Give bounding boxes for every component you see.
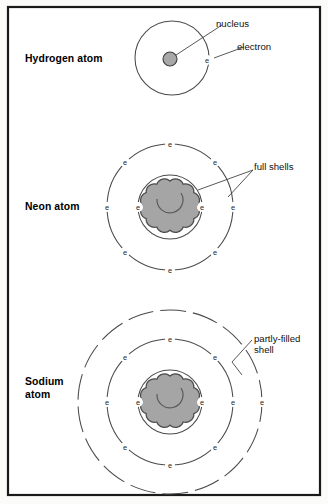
svg-text:e: e	[200, 203, 204, 212]
atomic-structure-figure: e e e	[0, 0, 328, 504]
neon-atom-label: Neon atom	[25, 201, 80, 214]
svg-text:e: e	[105, 398, 109, 407]
svg-text:e: e	[168, 335, 172, 344]
sodium-shell-3-electrons: e	[257, 397, 267, 407]
electron: e	[210, 352, 220, 362]
sodium-nucleus	[141, 374, 200, 427]
svg-text:e: e	[231, 203, 235, 212]
svg-text:e: e	[213, 353, 217, 362]
electron: e	[102, 397, 112, 407]
svg-text:e: e	[213, 248, 217, 257]
electron: e	[165, 460, 175, 470]
electron: e	[228, 397, 238, 407]
svg-text:e: e	[105, 203, 109, 212]
electron: e	[165, 334, 175, 344]
electron: e	[120, 247, 130, 257]
svg-text:e: e	[200, 398, 204, 407]
electron: e	[210, 442, 220, 452]
svg-text:e: e	[231, 398, 235, 407]
hydrogen-electron: e	[202, 55, 212, 65]
electron: e	[165, 139, 175, 149]
electron: e	[197, 397, 207, 407]
hydrogen-atom-label: Hydrogen atom	[25, 53, 103, 66]
electron: e	[210, 157, 220, 167]
partly-filled-shell-callout-label: partly-filled shell	[254, 333, 300, 356]
svg-text:e: e	[136, 203, 140, 212]
full-shells-callout-label: full shells	[254, 161, 293, 172]
svg-text:e: e	[213, 443, 217, 452]
electron: e	[120, 157, 130, 167]
electron: e	[102, 202, 112, 212]
svg-text:e: e	[213, 158, 217, 167]
sodium-atom-label: Sodium atom	[25, 376, 64, 401]
electron: e	[210, 247, 220, 257]
svg-text:e: e	[123, 353, 127, 362]
svg-text:e: e	[168, 266, 172, 275]
figure-canvas: e e e	[0, 0, 328, 504]
electron-callout-label: electron	[237, 41, 271, 52]
svg-text:e: e	[168, 461, 172, 470]
electron: e	[120, 442, 130, 452]
electron: e	[257, 397, 267, 407]
electron: e	[197, 202, 207, 212]
hydrogen-nucleus	[163, 52, 177, 66]
svg-text:e: e	[123, 158, 127, 167]
svg-text:e: e	[123, 443, 127, 452]
nucleus-callout-label: nucleus	[216, 18, 249, 29]
electron: e	[133, 202, 143, 212]
svg-text:e: e	[168, 140, 172, 149]
electron-glyph: e	[205, 56, 209, 65]
electron: e	[120, 352, 130, 362]
svg-text:e: e	[260, 398, 264, 407]
neon-nucleus	[141, 179, 200, 232]
svg-text:e: e	[136, 398, 140, 407]
electron: e	[133, 397, 143, 407]
electron: e	[165, 265, 175, 275]
electron: e	[228, 202, 238, 212]
svg-text:e: e	[123, 248, 127, 257]
